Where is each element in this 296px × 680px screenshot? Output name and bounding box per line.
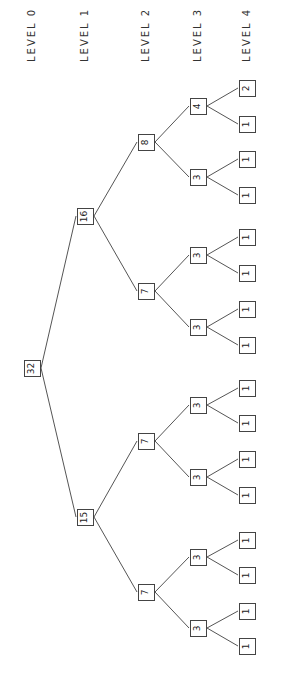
tree-edge <box>94 441 137 517</box>
leaf-node: 1 <box>239 151 256 168</box>
node-value: 1 <box>242 270 251 276</box>
node-value: 3 <box>193 474 202 480</box>
tree-node: 3 <box>190 469 207 486</box>
tree-edge <box>41 368 76 517</box>
tree-node: 7 <box>138 283 155 300</box>
node-value: 8 <box>141 139 150 145</box>
tree-edge <box>155 441 189 477</box>
tree-edge <box>155 592 189 628</box>
node-value: 1 <box>242 608 251 614</box>
tree-node: 32 <box>24 360 41 377</box>
node-value: 1 <box>242 156 251 162</box>
tree-edge <box>207 327 238 345</box>
tree-edge <box>155 106 189 142</box>
tree-edge <box>155 291 189 327</box>
tree-edge <box>207 309 238 327</box>
node-value: 32 <box>27 362 36 373</box>
leaf-node: 1 <box>239 532 256 549</box>
leaf-node: 1 <box>239 301 256 318</box>
tree-edge <box>207 405 238 423</box>
node-value: 3 <box>193 625 202 631</box>
node-value: 1 <box>242 234 251 240</box>
node-value: 1 <box>242 572 251 578</box>
tree-edge <box>207 611 238 628</box>
node-value: 1 <box>242 385 251 391</box>
node-value: 7 <box>141 438 150 444</box>
node-value: 3 <box>193 402 202 408</box>
node-value: 1 <box>242 643 251 649</box>
tree-node: 3 <box>190 620 207 637</box>
node-value: 3 <box>193 324 202 330</box>
tree-edge <box>207 88 238 106</box>
level-label: LEVEL 2 <box>140 8 151 62</box>
tree-edge <box>207 459 238 477</box>
tree-node: 3 <box>190 247 207 264</box>
leaf-node: 1 <box>239 567 256 584</box>
tree-edge <box>207 177 238 195</box>
leaf-node: 1 <box>239 337 256 354</box>
tree-node: 8 <box>138 134 155 151</box>
tree-edge <box>155 557 189 592</box>
tree-edge <box>207 159 238 177</box>
tree-edge <box>207 255 238 273</box>
node-value: 3 <box>193 174 202 180</box>
tree-node: 3 <box>190 397 207 414</box>
tree-edge <box>207 237 238 255</box>
tree-edge <box>155 255 189 291</box>
tree-edge <box>207 477 238 495</box>
tree-edge <box>94 517 137 592</box>
node-value: 1 <box>242 306 251 312</box>
level-label: LEVEL 3 <box>192 8 203 62</box>
leaf-node: 2 <box>239 80 256 97</box>
leaf-node: 1 <box>239 265 256 282</box>
level-label: LEVEL 1 <box>79 8 90 62</box>
tree-edge <box>155 405 189 441</box>
tree-edge <box>155 142 189 177</box>
tree-edge <box>207 388 238 405</box>
leaf-node: 1 <box>239 451 256 468</box>
tree-node: 7 <box>138 433 155 450</box>
node-value: 3 <box>193 252 202 258</box>
tree-node: 4 <box>190 98 207 115</box>
tree-edge <box>94 142 137 216</box>
leaf-node: 1 <box>239 603 256 620</box>
tree-node: 16 <box>77 208 94 225</box>
tree-node: 3 <box>190 549 207 566</box>
tree-edge <box>207 628 238 646</box>
tree-edge <box>41 216 76 368</box>
tree-edge <box>207 557 238 575</box>
leaf-node: 1 <box>239 187 256 204</box>
node-value: 1 <box>242 492 251 498</box>
node-value: 7 <box>141 589 150 595</box>
leaf-node: 1 <box>239 487 256 504</box>
tree-edge <box>207 540 238 557</box>
node-value: 1 <box>242 342 251 348</box>
leaf-node: 1 <box>239 415 256 432</box>
leaf-node: 1 <box>239 638 256 655</box>
leaf-node: 1 <box>239 380 256 397</box>
node-value: 3 <box>193 554 202 560</box>
node-value: 16 <box>80 210 89 221</box>
node-value: 1 <box>242 420 251 426</box>
leaf-node: 1 <box>239 229 256 246</box>
tree-node: 3 <box>190 319 207 336</box>
node-value: 1 <box>242 192 251 198</box>
node-value: 2 <box>242 85 251 91</box>
node-value: 1 <box>242 121 251 127</box>
tree-node: 3 <box>190 169 207 186</box>
tree-edge <box>207 106 238 124</box>
node-value: 1 <box>242 456 251 462</box>
level-label: LEVEL 0 <box>26 8 37 62</box>
node-value: 4 <box>193 103 202 109</box>
tree-edge <box>94 216 137 291</box>
node-value: 15 <box>80 511 89 522</box>
leaf-node: 1 <box>239 116 256 133</box>
level-label: LEVEL 4 <box>241 8 252 62</box>
tree-node: 15 <box>77 509 94 526</box>
tree-node: 7 <box>138 584 155 601</box>
node-value: 7 <box>141 288 150 294</box>
tree-diagram: LEVEL 0LEVEL 1LEVEL 2LEVEL 3LEVEL 4 3216… <box>0 0 296 680</box>
node-value: 1 <box>242 537 251 543</box>
